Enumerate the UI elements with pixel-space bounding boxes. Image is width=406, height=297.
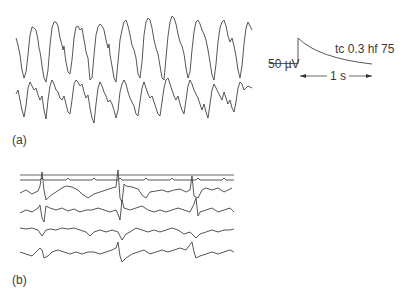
eeg-trace-channel-1 [16,16,252,82]
eeg-trace-channel-4 [20,242,234,262]
time-scale-label: 1 s [330,69,346,83]
eeg-trace-channel-2 [20,198,234,222]
timing-marker-line [20,178,234,180]
panel-b-label: (b) [12,273,27,287]
eeg-trace-channel-3 [20,228,234,240]
panel-a-label: (a) [12,133,27,147]
arrowhead-left-icon [300,74,306,78]
panel-b-header-lines [20,175,234,180]
panel-a-traces [16,16,252,123]
eeg-trace-channel-2 [16,78,252,123]
amplitude-label: 50 µV [268,57,300,71]
filter-settings-label: tc 0.3 hf 75 [335,42,394,56]
arrowhead-right-icon [366,74,372,78]
panel-b-traces [20,170,234,262]
